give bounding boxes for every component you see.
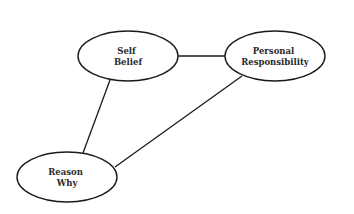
concept-diagram: Self Belief Personal Responsibility Reas…: [0, 0, 354, 214]
edge-personal-responsibility-reason-why: [115, 76, 242, 167]
edge-self-belief-reason-why: [83, 80, 110, 153]
node-personal-responsibility: Personal Responsibility: [225, 31, 325, 81]
node-reason-why: Reason Why: [17, 152, 117, 202]
node-self-belief: Self Belief: [78, 31, 178, 81]
node-self-belief-ellipse: [78, 31, 178, 81]
node-reason-why-ellipse: [17, 152, 117, 202]
nodes: Self Belief Personal Responsibility Reas…: [17, 31, 325, 202]
node-personal-responsibility-ellipse: [225, 31, 325, 81]
